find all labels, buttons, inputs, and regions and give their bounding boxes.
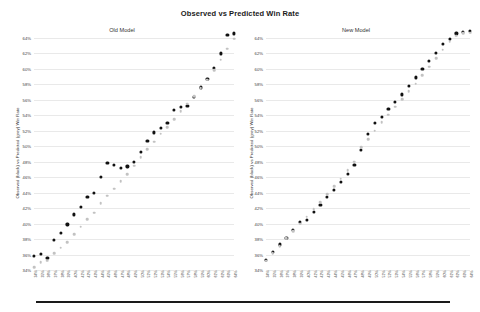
x-axis-tick-label: 52% — [388, 271, 392, 278]
predicted-point — [455, 34, 458, 37]
x-axis-tick-label: 45% — [341, 271, 345, 278]
observed-point — [139, 150, 142, 153]
predicted-point — [299, 222, 302, 225]
y-axis-tick-label: 64% — [23, 36, 31, 41]
y-axis-tick-label: 34% — [23, 268, 31, 273]
x-axis-tick-label: 46% — [348, 271, 352, 278]
predicted-point — [401, 98, 404, 101]
gridline — [266, 208, 470, 209]
panel-title-new: New Model — [240, 27, 472, 33]
observed-point — [66, 223, 69, 226]
predicted-point — [73, 233, 76, 236]
observed-point — [360, 149, 363, 152]
x-axis-tick-label: 57% — [187, 271, 191, 278]
y-axis-tick-label: 60% — [23, 66, 31, 71]
x-axis-ticks-old: 34%35%36%37%38%39%40%41%42%43%44%45%46%4… — [8, 274, 234, 312]
predicted-point — [394, 106, 397, 109]
observed-point — [407, 84, 410, 87]
predicted-point — [53, 252, 56, 255]
predicted-point — [86, 218, 89, 221]
observed-point — [219, 52, 222, 55]
predicted-point — [106, 194, 109, 197]
x-axis-tick-label: 49% — [368, 271, 372, 278]
predicted-point — [219, 58, 222, 61]
observed-point — [332, 188, 335, 191]
x-axis-tick-label: 49% — [134, 271, 138, 278]
x-axis-tick-label: 41% — [81, 271, 85, 278]
gridline — [266, 115, 470, 116]
panel-title-old: Old Model — [8, 27, 236, 33]
x-axis-tick-label: 38% — [61, 271, 65, 278]
x-axis-tick-label: 63% — [463, 271, 467, 278]
observed-point — [99, 176, 102, 179]
predicted-point — [360, 146, 363, 149]
observed-point — [346, 173, 349, 176]
observed-point — [72, 213, 75, 216]
predicted-point — [278, 245, 281, 248]
gridline — [266, 69, 470, 70]
x-axis-tick-label: 47% — [354, 271, 358, 278]
gridline — [34, 146, 234, 147]
gridline — [34, 177, 234, 178]
gridline — [34, 239, 234, 240]
x-axis-tick-label: 56% — [416, 271, 420, 278]
x-axis-tick-label: 54% — [167, 271, 171, 278]
x-axis-tick-label: 56% — [181, 271, 185, 278]
x-axis-tick-label: 40% — [307, 271, 311, 278]
observed-point — [159, 126, 162, 129]
x-axis-tick-label: 35% — [273, 271, 277, 278]
y-axis-tick-label: 56% — [23, 97, 31, 102]
x-axis-tick-label: 44% — [101, 271, 105, 278]
predicted-point — [285, 237, 288, 240]
observed-point — [32, 254, 35, 257]
x-axis-tick-label: 61% — [450, 271, 454, 278]
x-axis-tick-label: 50% — [141, 271, 145, 278]
predicted-point — [272, 252, 275, 255]
y-axis-tick-label: 52% — [23, 128, 31, 133]
x-axis-tick-label: 37% — [286, 271, 290, 278]
observed-point — [421, 67, 424, 70]
observed-point — [305, 218, 308, 221]
y-axis-tick-label: 58% — [255, 82, 263, 87]
y-axis-tick-label: 48% — [23, 159, 31, 164]
y-axis-tick-label: 46% — [255, 175, 263, 180]
observed-point — [428, 60, 431, 63]
predicted-point — [233, 37, 236, 40]
observed-point — [59, 231, 62, 234]
predicted-point — [319, 201, 322, 204]
y-axis-tick-label: 62% — [255, 51, 263, 56]
gridline — [34, 38, 234, 39]
y-axis-tick-label: 52% — [255, 128, 263, 133]
y-axis-tick-label: 58% — [23, 82, 31, 87]
gridline — [266, 53, 470, 54]
x-axis-tick-label: 58% — [429, 271, 433, 278]
predicted-point — [213, 69, 216, 72]
y-axis-tick-label: 54% — [255, 113, 263, 118]
y-axis-tick-label: 40% — [23, 221, 31, 226]
gridline — [34, 193, 234, 194]
predicted-point — [93, 211, 96, 214]
x-axis-tick-label: 51% — [147, 271, 151, 278]
x-axis-tick-label: 57% — [422, 271, 426, 278]
predicted-point — [421, 74, 424, 77]
y-axis-label-new: Observed (black) vs Predicted (grey) Win… — [249, 107, 254, 198]
observed-point — [86, 195, 89, 198]
x-axis-tick-label: 63% — [227, 271, 231, 278]
x-axis-tick-label: 58% — [194, 271, 198, 278]
y-axis-tick-label: 40% — [255, 221, 263, 226]
plot-area-old: 64%62%60%58%56%54%52%50%48%46%44%42%40%3… — [34, 38, 234, 270]
predicted-point — [435, 57, 438, 60]
observed-point — [387, 108, 390, 111]
x-axis-ticks-new: 34%35%36%37%38%39%40%41%42%43%44%45%46%4… — [240, 274, 470, 312]
x-axis-tick-label: 64% — [470, 271, 474, 278]
gridline — [34, 208, 234, 209]
x-axis-tick-label: 59% — [201, 271, 205, 278]
gridline — [266, 224, 470, 225]
predicted-point — [133, 164, 136, 167]
predicted-point — [113, 188, 116, 191]
y-axis-tick-label: 36% — [255, 252, 263, 257]
x-axis-tick-label: 59% — [436, 271, 440, 278]
predicted-point — [414, 82, 417, 85]
x-axis-tick-label: 55% — [409, 271, 413, 278]
gridline — [34, 115, 234, 116]
